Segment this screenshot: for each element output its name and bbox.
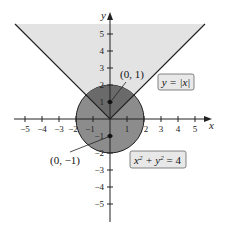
x-axis-label: x — [208, 119, 214, 131]
y-tick-label: 4 — [100, 46, 105, 56]
y-tick-label: 2 — [100, 80, 105, 90]
abs-eq-label: y = |x| — [161, 76, 191, 88]
point-0-1 — [108, 100, 112, 104]
y-tick-label: −4 — [94, 182, 104, 192]
y-axis-label: y — [100, 9, 106, 21]
y-tick-label: −2 — [94, 148, 104, 158]
x-tick-label: −2 — [68, 124, 78, 134]
y-axis-arrow-icon — [107, 12, 113, 20]
x-tick-label: 1 — [125, 124, 130, 134]
y-tick-label: 1 — [100, 97, 105, 107]
x-tick-label: −1 — [85, 124, 95, 134]
y-tick-label: 5 — [100, 29, 105, 39]
x-tick-label: 4 — [176, 124, 181, 134]
point-0-neg1 — [108, 134, 112, 138]
y-tick-label: −3 — [94, 165, 104, 175]
point-label-bottom: (0, −1) — [50, 154, 80, 167]
y-tick-label: −5 — [94, 199, 104, 209]
x-tick-label: −5 — [20, 124, 30, 134]
point-label-top: (0, 1) — [120, 68, 144, 81]
x-tick-label: −4 — [37, 124, 47, 134]
x-tick-label: 3 — [159, 124, 164, 134]
chart-plot: −5 −4 −3 −2 −1 1 2 3 4 5 5 4 3 2 1 −1 −2… — [0, 0, 225, 233]
x-tick-label: 5 — [193, 124, 198, 134]
x-tick-label: −3 — [54, 124, 64, 134]
y-tick-label: 3 — [100, 63, 105, 73]
x-tick-label: 2 — [144, 124, 149, 134]
